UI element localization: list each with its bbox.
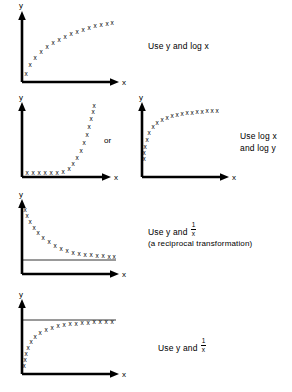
data-points: x x x x x x x x x x x x x x x x x x x xyxy=(22,318,114,370)
svg-text:x: x xyxy=(65,247,69,254)
svg-text:x: x xyxy=(98,318,102,325)
svg-text:x: x xyxy=(28,61,32,68)
y-axis-label: y xyxy=(19,190,23,199)
panel-4: y x x x x x x x x x x x x x x x x x x xyxy=(0,288,140,392)
svg-text:x: x xyxy=(61,168,65,175)
x-axis-label: x xyxy=(232,173,236,182)
fraction-denominator: x xyxy=(201,346,207,353)
svg-text:x: x xyxy=(47,238,51,245)
svg-text:x: x xyxy=(104,318,108,325)
svg-text:x: x xyxy=(57,36,61,43)
svg-text:x: x xyxy=(99,21,103,28)
panel-2b: y x x x x x x x x x x x x x x x x x x x xyxy=(128,95,238,190)
x-axis-label: x xyxy=(122,78,126,87)
caption-row-1: Use y and log x xyxy=(148,40,209,52)
caption-row-1-text: Use y and log x xyxy=(148,40,209,52)
svg-text:x: x xyxy=(170,112,174,119)
fraction-numerator: 1 xyxy=(201,337,207,344)
svg-text:x: x xyxy=(37,169,41,176)
panel-3-plot: y x x x x x x x x x x x x x x x x x x xyxy=(0,190,140,290)
svg-text:x: x xyxy=(55,169,59,176)
x-axis-arrowhead xyxy=(110,270,119,278)
caption-row-3-prefix: Use y and xyxy=(148,227,188,237)
svg-text:x: x xyxy=(79,147,83,154)
svg-text:x: x xyxy=(210,107,214,114)
fraction-denominator: x xyxy=(191,230,197,237)
svg-text:x: x xyxy=(74,320,78,327)
svg-text:x: x xyxy=(69,30,73,37)
svg-text:x: x xyxy=(33,333,37,340)
svg-text:x: x xyxy=(190,109,194,116)
svg-text:x: x xyxy=(82,139,86,146)
panel-3: y x x x x x x x x x x x x x x x x x x xyxy=(0,190,140,290)
svg-text:x: x xyxy=(23,356,27,363)
transformation-figure: y x x x x x x x x x x x x x x x x x xyxy=(0,0,292,392)
y-axis-label: y xyxy=(19,95,23,102)
caption-row-3: Use y and 1 x (a reciprocal transformati… xyxy=(148,222,252,250)
fraction-numerator: 1 xyxy=(191,221,197,228)
svg-text:x: x xyxy=(92,102,96,109)
svg-text:x: x xyxy=(36,229,40,236)
svg-text:x: x xyxy=(59,245,63,252)
svg-text:x: x xyxy=(110,19,114,26)
x-axis-arrowhead xyxy=(110,370,119,378)
svg-text:x: x xyxy=(89,115,93,122)
svg-text:x: x xyxy=(71,160,75,167)
svg-text:x: x xyxy=(110,318,114,325)
svg-text:x: x xyxy=(45,43,49,50)
svg-text:x: x xyxy=(93,22,97,29)
svg-text:x: x xyxy=(38,329,42,336)
svg-text:x: x xyxy=(91,108,95,115)
y-axis-label: y xyxy=(139,95,143,102)
svg-text:x: x xyxy=(87,123,91,130)
y-axis-label: y xyxy=(19,1,23,10)
svg-text:x: x xyxy=(145,136,149,143)
svg-text:x: x xyxy=(24,70,28,77)
x-axis-arrowhead xyxy=(220,173,229,181)
svg-text:x: x xyxy=(85,131,89,138)
svg-text:x: x xyxy=(180,110,184,117)
svg-text:x: x xyxy=(200,108,204,115)
svg-text:x: x xyxy=(175,111,179,118)
or-connector-label: or xyxy=(104,136,111,145)
svg-text:x: x xyxy=(160,116,164,123)
x-axis-arrowhead xyxy=(102,173,111,181)
svg-text:x: x xyxy=(155,119,159,126)
caption-row-4: Use y and 1 x xyxy=(158,338,207,354)
svg-text:x: x xyxy=(71,249,75,256)
x-axis-arrowhead xyxy=(110,78,119,86)
svg-text:x: x xyxy=(86,319,90,326)
fraction-one-over-x: 1 x xyxy=(201,337,207,353)
svg-text:x: x xyxy=(195,108,199,115)
data-points: x x x x x x x x x x x x x x x x x x x xyxy=(142,107,219,163)
y-axis-arrowhead xyxy=(18,11,26,20)
panel-4-plot: y x x x x x x x x x x x x x x x x x x xyxy=(0,288,140,392)
svg-text:x: x xyxy=(215,107,219,114)
caption-row-2-line-1: Use log x xyxy=(240,130,277,142)
svg-text:x: x xyxy=(142,149,146,156)
svg-text:x: x xyxy=(95,252,99,259)
panel-1: y x x x x x x x x x x x x x x x x x xyxy=(0,0,140,95)
svg-text:x: x xyxy=(81,26,85,33)
svg-text:x: x xyxy=(143,143,147,150)
caption-row-3-line-1: Use y and 1 x xyxy=(148,222,252,238)
fraction-one-over-x: 1 x xyxy=(191,221,197,237)
caption-row-3-line-2: (a reciprocal transformation) xyxy=(148,238,252,250)
caption-row-4-line-1: Use y and 1 x xyxy=(158,338,207,354)
svg-text:x: x xyxy=(75,154,79,161)
y-axis-arrowhead xyxy=(18,299,26,308)
svg-text:x: x xyxy=(89,251,93,258)
svg-text:x: x xyxy=(87,24,91,31)
x-axis-label: x xyxy=(122,270,126,279)
svg-text:x: x xyxy=(22,362,26,369)
x-axis-label: x xyxy=(122,370,126,379)
data-points: x x x x x x x x x x x x x x x x x xyxy=(25,102,96,176)
svg-text:x: x xyxy=(49,169,53,176)
svg-text:x: x xyxy=(62,321,66,328)
panel-1-plot: y x x x x x x x x x x x x x x x x x xyxy=(0,0,140,95)
svg-text:x: x xyxy=(83,251,87,258)
svg-text:x: x xyxy=(101,252,105,259)
svg-text:x: x xyxy=(25,169,29,176)
svg-text:x: x xyxy=(165,114,169,121)
svg-text:x: x xyxy=(107,253,111,260)
